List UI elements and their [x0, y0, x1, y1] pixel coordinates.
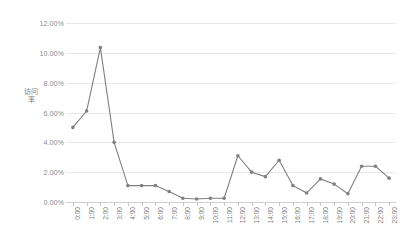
data-point: [319, 177, 323, 181]
x-tick-label: 23:00: [392, 207, 399, 224]
x-tick: [142, 203, 143, 206]
data-point: [264, 175, 268, 179]
x-tick-label: 12:00: [240, 207, 247, 224]
x-tick-label: 2:00: [103, 207, 110, 220]
x-tick: [100, 203, 101, 206]
y-tick-label: 8.00%: [20, 78, 64, 87]
y-tick-label: 0.00%: [20, 198, 64, 207]
x-tick-label: 14:00: [268, 207, 275, 224]
x-tick-label: 17:00: [309, 207, 316, 224]
y-tick-label: 4.00%: [20, 138, 64, 147]
data-point: [360, 164, 364, 168]
data-point: [99, 46, 103, 50]
x-tick-label: 20:00: [350, 207, 357, 224]
data-point: [181, 196, 185, 200]
plot-area: [66, 23, 396, 202]
x-tick: [334, 203, 335, 206]
x-tick: [128, 203, 129, 206]
x-tick-label: 21:00: [364, 207, 371, 224]
x-tick: [183, 203, 184, 206]
data-point: [291, 184, 295, 188]
data-point: [112, 141, 116, 145]
x-tick-label: 16:00: [295, 207, 302, 224]
data-point: [374, 164, 378, 168]
data-point: [126, 184, 130, 188]
x-tick-label: 19:00: [337, 207, 344, 224]
data-point: [140, 184, 144, 188]
data-point: [387, 176, 391, 180]
x-tick-label: 0:00: [75, 207, 82, 220]
x-tick: [197, 203, 198, 206]
x-tick-label: 5:00: [144, 207, 151, 220]
x-tick: [389, 203, 390, 206]
data-point: [346, 192, 350, 196]
y-tick-label: 2.00%: [20, 168, 64, 177]
data-point: [222, 196, 226, 200]
data-point: [71, 126, 75, 130]
x-tick: [155, 203, 156, 206]
series-line: [73, 48, 389, 199]
x-tick-label: 3:00: [117, 207, 124, 220]
series-svg: [66, 23, 396, 202]
data-point: [195, 197, 199, 201]
y-tick-label: 6.00%: [20, 108, 64, 117]
x-tick-label: 11:00: [227, 207, 234, 223]
data-point: [332, 182, 336, 186]
x-tick-label: 22:00: [378, 207, 385, 224]
data-point: [277, 158, 281, 162]
data-point: [85, 109, 89, 113]
data-point: [250, 170, 254, 174]
x-tick: [169, 203, 170, 206]
x-tick: [73, 203, 74, 206]
y-axis-tick-labels: 0.00%2.00%4.00%6.00%8.00%10.00%12.00%: [0, 0, 64, 246]
x-tick-label: 1:00: [89, 207, 96, 220]
data-point: [167, 190, 171, 194]
data-point: [209, 196, 213, 200]
x-tick: [114, 203, 115, 206]
x-tick-label: 18:00: [323, 207, 330, 224]
x-tick-label: 4:00: [130, 207, 137, 220]
x-tick-label: 8:00: [185, 207, 192, 220]
x-tick: [87, 203, 88, 206]
x-tick-label: 6:00: [158, 207, 165, 220]
data-point: [236, 154, 240, 158]
x-tick: [224, 203, 225, 206]
y-tick-label: 12.00%: [20, 19, 64, 28]
chart-container: 访问率 0.00%2.00%4.00%6.00%8.00%10.00%12.00…: [0, 0, 406, 246]
x-axis-tick-labels: 0:001:002:003:004:005:006:007:008:009:00…: [66, 207, 396, 246]
y-tick-label: 10.00%: [20, 48, 64, 57]
x-tick-label: 13:00: [254, 207, 261, 224]
x-tick-label: 15:00: [282, 207, 289, 224]
data-point: [305, 191, 309, 195]
data-point: [154, 184, 158, 188]
x-tick-label: 9:00: [199, 207, 206, 220]
x-tick: [279, 203, 280, 206]
x-tick-label: 10:00: [213, 207, 220, 224]
x-tick-label: 7:00: [172, 207, 179, 220]
